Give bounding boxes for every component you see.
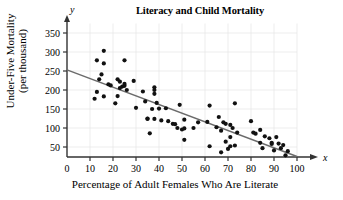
data-point	[228, 135, 232, 139]
axes	[64, 15, 318, 160]
data-point	[166, 119, 170, 123]
y-tick-label: 350	[45, 28, 60, 39]
data-point	[277, 141, 281, 145]
data-point	[205, 120, 209, 124]
data-point	[254, 132, 258, 136]
data-point	[152, 117, 156, 121]
data-point	[249, 119, 253, 123]
data-point	[219, 129, 223, 133]
data-point	[134, 106, 138, 110]
y-axis-arrow-icon	[64, 15, 70, 22]
x-tick-label: 20	[108, 163, 118, 174]
data-point	[182, 138, 186, 142]
data-point	[152, 88, 156, 92]
data-point	[182, 126, 186, 130]
y-tick-label: 100	[45, 123, 60, 134]
data-point	[233, 101, 237, 105]
data-point	[148, 131, 152, 135]
data-point	[95, 90, 99, 94]
data-point	[196, 120, 200, 124]
data-point	[102, 49, 106, 53]
data-point	[263, 134, 267, 138]
data-point	[97, 77, 101, 81]
data-point	[286, 149, 290, 153]
data-point	[122, 58, 126, 62]
y-tick-label: 300	[45, 47, 60, 58]
data-point	[281, 143, 285, 147]
x-axis-symbol: x	[322, 152, 328, 163]
x-tick-label: 10	[85, 163, 95, 174]
y-axis-symbol: y	[69, 4, 75, 15]
y-tick-labels: 50100150200250300350	[45, 28, 60, 153]
x-tick-label: 40	[154, 163, 164, 174]
x-tick-label: 70	[223, 163, 233, 174]
data-point	[141, 89, 145, 93]
data-point	[113, 101, 117, 105]
data-point	[217, 115, 221, 119]
y-tick-label: 250	[45, 66, 60, 77]
data-point	[99, 72, 103, 76]
data-point	[208, 103, 212, 107]
data-point	[122, 84, 126, 88]
data-point	[283, 153, 287, 157]
data-point	[175, 126, 179, 130]
x-tick-label: 0	[65, 163, 70, 174]
x-tick-label: 90	[269, 163, 279, 174]
data-point	[219, 150, 223, 154]
data-point	[235, 130, 239, 134]
x-tick-label: 60	[200, 163, 210, 174]
data-point	[155, 101, 159, 105]
data-point	[164, 106, 168, 110]
data-point	[208, 144, 212, 148]
x-tick-label: 100	[290, 163, 305, 174]
plot-area: 50100150200250300350 0102030405060708090…	[0, 0, 343, 200]
data-point	[145, 117, 149, 121]
x-tick-label: 30	[131, 163, 141, 174]
data-point	[260, 146, 264, 150]
x-tick-label: 80	[246, 163, 256, 174]
x-tick-labels: 0102030405060708090100	[65, 163, 305, 174]
y-tick-label: 150	[45, 104, 60, 115]
data-point	[93, 97, 97, 101]
data-point	[132, 79, 136, 83]
data-point	[143, 99, 147, 103]
data-point	[274, 135, 278, 139]
data-point	[102, 61, 106, 65]
data-point	[233, 143, 237, 147]
data-point	[157, 107, 161, 111]
data-point	[231, 126, 235, 130]
scatter-plot-figure: Literacy and Child Mortality Under-Five …	[0, 0, 343, 200]
data-point	[182, 118, 186, 122]
data-point	[224, 122, 228, 126]
data-point	[191, 126, 195, 130]
data-point	[228, 144, 232, 148]
x-axis-arrow-icon	[310, 154, 318, 160]
data-point	[258, 141, 262, 145]
data-point	[173, 122, 177, 126]
data-points	[93, 49, 290, 158]
data-point	[267, 136, 271, 140]
data-point	[258, 128, 262, 132]
data-point	[152, 92, 156, 96]
gridlines	[67, 24, 297, 158]
x-tick-label: 50	[177, 163, 187, 174]
data-point	[224, 140, 228, 144]
data-point	[214, 125, 218, 129]
data-point	[116, 94, 120, 98]
data-point	[270, 141, 274, 145]
data-point	[150, 107, 154, 111]
data-point	[178, 103, 182, 107]
data-point	[159, 118, 163, 122]
data-point	[95, 58, 99, 62]
y-tick-label: 50	[50, 142, 60, 153]
y-tick-label: 200	[45, 85, 60, 96]
data-point	[125, 88, 129, 92]
data-point	[102, 94, 106, 98]
data-point	[272, 148, 276, 152]
data-point	[118, 80, 122, 84]
data-point	[109, 83, 113, 87]
